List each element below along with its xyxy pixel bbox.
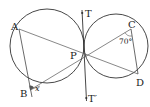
- label-P: P: [70, 50, 77, 61]
- angle-70-arc: [125, 33, 132, 36]
- line-CD: [131, 29, 138, 74]
- right-circle: [84, 14, 148, 78]
- label-C: C: [128, 19, 136, 30]
- geometry-diagram: A B x C 70° D P T T′: [0, 0, 150, 107]
- left-circle: [10, 9, 84, 83]
- point-T-dot: [81, 12, 83, 14]
- label-T: T: [85, 8, 92, 19]
- label-B: B: [20, 88, 27, 99]
- label-angle-70: 70°: [119, 37, 133, 46]
- label-A: A: [10, 21, 19, 32]
- label-D: D: [136, 77, 144, 88]
- label-T-prime: T′: [88, 93, 98, 104]
- line-BC: [30, 29, 131, 90]
- label-angle-x: x: [35, 84, 40, 93]
